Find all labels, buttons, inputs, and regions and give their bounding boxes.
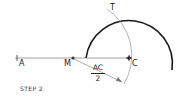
label-a: A xyxy=(19,60,24,68)
point-m-mark xyxy=(71,56,74,59)
arrowhead-icon xyxy=(116,77,122,82)
radius-fraction-label: AC 2 xyxy=(91,64,105,82)
fraction-numerator: AC xyxy=(91,64,105,74)
label-t: T xyxy=(110,4,115,12)
label-m: M xyxy=(64,60,71,68)
step-label: STEP 2 xyxy=(20,86,43,92)
fraction-denominator: 2 xyxy=(91,74,105,83)
label-c: C xyxy=(132,60,138,68)
